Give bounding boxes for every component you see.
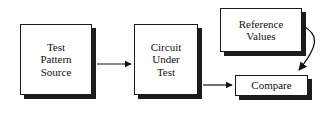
diagram-canvas: Test Pattern Source Circuit Under Test R… [0,0,329,114]
connector-layer [0,0,329,114]
edge-ref-to-compare [299,26,315,70]
